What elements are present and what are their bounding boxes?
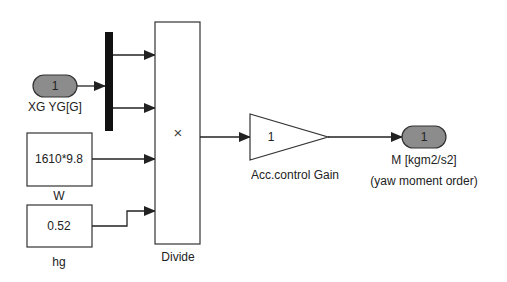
- inport-label: XG YG[G]: [28, 100, 82, 114]
- constant-w-label: W: [53, 189, 64, 203]
- divide-label: Divide: [161, 250, 194, 264]
- inport-number: 1: [52, 79, 59, 93]
- multiply-icon: ×: [174, 126, 183, 140]
- diagram-canvas: [0, 0, 507, 282]
- constant-hg-value: 0.52: [47, 219, 70, 233]
- gain-block[interactable]: [250, 114, 328, 160]
- constant-hg-label: hg: [52, 255, 65, 269]
- outport-label-line1: M [kgm2/s2]: [391, 153, 456, 167]
- signal-line-hg-divide[interactable]: [92, 211, 155, 226]
- gain-label: Acc.control Gain: [251, 168, 339, 182]
- demux-block[interactable]: [105, 32, 113, 131]
- outport-number: 1: [421, 130, 428, 144]
- outport-label-line2: (yaw moment order): [370, 174, 477, 188]
- gain-value: 1: [268, 130, 275, 144]
- constant-w-value: 1610*9.8: [35, 152, 83, 166]
